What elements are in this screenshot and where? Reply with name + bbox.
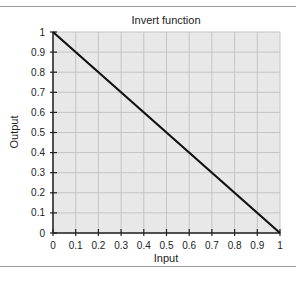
x-tick-label: 0.7 (205, 240, 219, 251)
y-tick-label: 0.4 (31, 147, 45, 158)
y-tick-label: 0.7 (31, 87, 45, 98)
x-axis-label: Input (154, 252, 178, 264)
x-tick-label: 0.2 (91, 240, 105, 251)
x-tick-label: 0 (50, 240, 56, 251)
x-tick-label: 0.4 (137, 240, 151, 251)
y-tick-label: 0.3 (31, 167, 45, 178)
y-tick-label: 0.2 (31, 187, 45, 198)
chart: 00.10.20.30.40.50.60.70.80.9100.10.20.30… (0, 0, 296, 282)
x-tick-label: 0.3 (114, 240, 128, 251)
y-tick-label: 0.9 (31, 47, 45, 58)
x-tick-label: 0.1 (69, 240, 83, 251)
x-tick-label: 1 (277, 240, 283, 251)
y-tick-label: 0.5 (31, 127, 45, 138)
x-tick-label: 0.9 (250, 240, 264, 251)
y-tick-label: 0.8 (31, 67, 45, 78)
chart-title: Invert function (131, 14, 200, 26)
x-tick-label: 0.8 (228, 240, 242, 251)
x-tick-label: 0.5 (160, 240, 174, 251)
y-tick-label: 1 (39, 27, 45, 38)
y-tick-label: 0.6 (31, 107, 45, 118)
x-tick-label: 0.6 (182, 240, 196, 251)
y-tick-label: 0 (39, 228, 45, 239)
y-tick-label: 0.1 (31, 207, 45, 218)
y-axis-label: Output (8, 115, 20, 148)
